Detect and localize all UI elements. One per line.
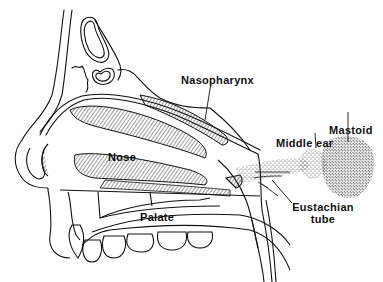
label-eustachian-tube: Eustachian tube — [291, 201, 355, 225]
label-eustachian-line1: Eustachian — [291, 201, 355, 213]
label-palate: Palate — [140, 211, 174, 223]
tooth — [83, 240, 102, 262]
label-middle-ear: Middle ear — [276, 137, 333, 149]
sphenoid-sinus — [93, 68, 115, 84]
label-nasopharynx: Nasopharynx — [181, 74, 254, 86]
nasopharynx-leader — [205, 83, 211, 120]
tooth — [127, 234, 154, 252]
frontal-bone — [22, 10, 72, 140]
upper-lip — [48, 188, 70, 258]
eustachian-leader — [272, 180, 292, 203]
tooth — [188, 232, 213, 248]
label-mastoid: Mastoid — [329, 124, 373, 136]
label-nose: Nose — [108, 151, 136, 163]
eustachian-tube-graphic — [236, 158, 309, 196]
label-eustachian-line2: tube — [291, 213, 355, 225]
anatomy-diagram: Nasopharynx Nose Palate Middle ear Masto… — [0, 0, 383, 282]
tooth — [102, 236, 125, 258]
external-nose — [15, 140, 48, 188]
frontal-sinus — [81, 17, 109, 62]
nasal-turbinates — [70, 95, 230, 196]
ethmoid-outline — [72, 66, 88, 92]
tooth — [158, 232, 187, 250]
